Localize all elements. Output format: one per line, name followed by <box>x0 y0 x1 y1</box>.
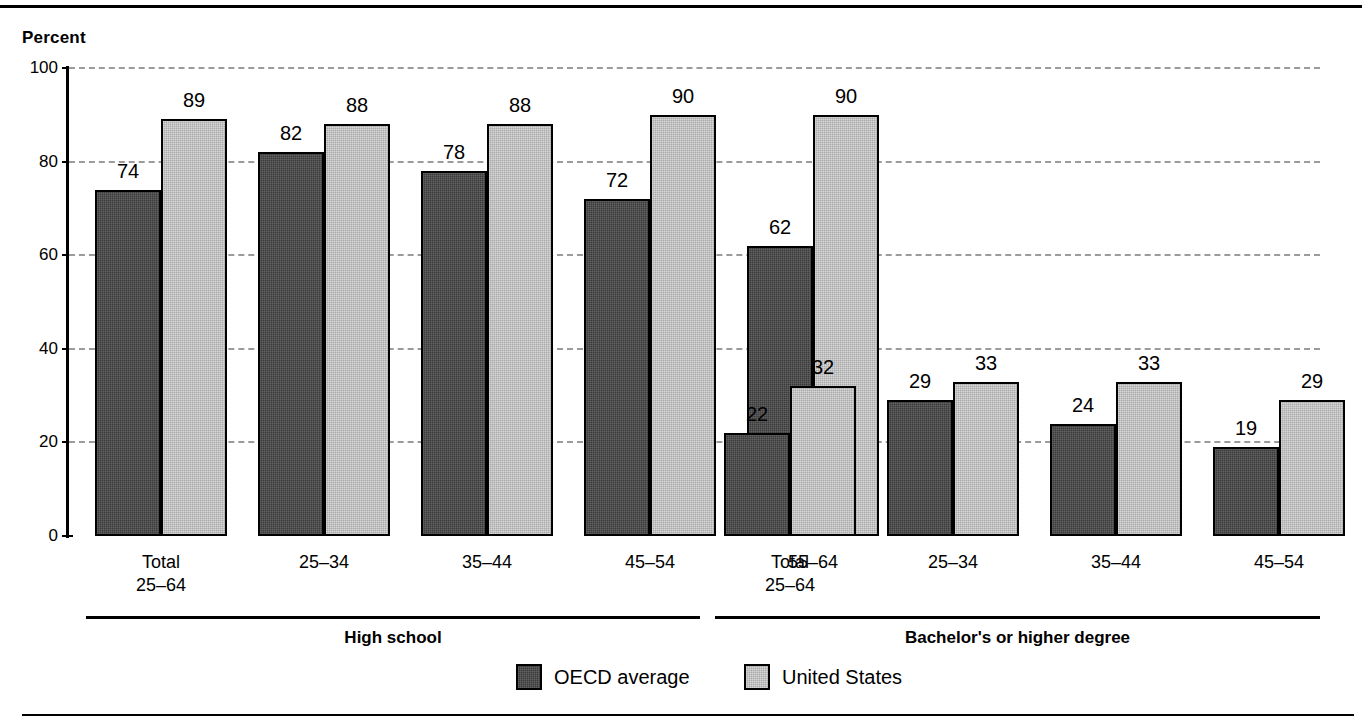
bar-us-3[interactable] <box>650 115 716 536</box>
bar-us-5[interactable] <box>790 386 856 536</box>
bar-oecd-3[interactable] <box>584 199 650 536</box>
bar-us-0[interactable] <box>161 119 227 536</box>
bar-oecd-7[interactable] <box>1050 424 1116 536</box>
bar-value-label-us-6: 33 <box>953 353 1019 373</box>
bar-oecd-1[interactable] <box>258 152 324 536</box>
bar-group: 7489828878887290629022322933243319291632 <box>0 0 1362 726</box>
bar-value-label-us-8: 29 <box>1279 371 1345 391</box>
bar-value-label-oecd-8: 19 <box>1213 418 1279 438</box>
bar-value-label-oecd-4: 62 <box>747 217 813 237</box>
bar-value-label-oecd-0: 74 <box>95 161 161 181</box>
bar-value-label-oecd-2: 78 <box>421 142 487 162</box>
bar-us-6[interactable] <box>953 382 1019 536</box>
bar-value-label-us-0: 89 <box>161 90 227 110</box>
bar-us-8[interactable] <box>1279 400 1345 536</box>
bar-value-label-us-3: 90 <box>650 86 716 106</box>
bar-us-1[interactable] <box>324 124 390 536</box>
bar-value-label-oecd-6: 29 <box>887 371 953 391</box>
bar-value-label-us-1: 88 <box>324 95 390 115</box>
bar-oecd-5[interactable] <box>724 433 790 536</box>
bar-value-label-us-2: 88 <box>487 95 553 115</box>
bar-value-label-oecd-1: 82 <box>258 123 324 143</box>
bar-value-label-oecd-5: 22 <box>724 404 790 424</box>
bar-value-label-oecd-7: 24 <box>1050 395 1116 415</box>
bar-value-label-us-5: 32 <box>790 357 856 377</box>
bar-oecd-2[interactable] <box>421 171 487 536</box>
bar-oecd-0[interactable] <box>95 190 161 536</box>
bar-us-2[interactable] <box>487 124 553 536</box>
bar-value-label-us-4: 90 <box>813 86 879 106</box>
bar-value-label-us-7: 33 <box>1116 353 1182 373</box>
bar-oecd-8[interactable] <box>1213 447 1279 536</box>
bar-us-7[interactable] <box>1116 382 1182 536</box>
chart-page: Percent 100806040200 7489828878887290629… <box>0 0 1362 726</box>
bar-value-label-oecd-3: 72 <box>584 170 650 190</box>
bar-oecd-6[interactable] <box>887 400 953 536</box>
